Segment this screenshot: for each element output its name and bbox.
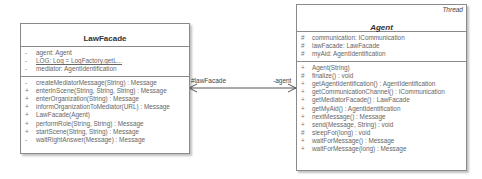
attributes-section: #communication: ICommunication #lawFacad… — [297, 32, 466, 62]
operation-row: +informOrganizationToMediator(URL) : Mes… — [21, 103, 189, 111]
attribute-row: -agent: Agent — [21, 49, 189, 57]
attribute-row: #myAid: AgentIdentification — [297, 50, 466, 58]
role-agent-label: -agent — [273, 77, 291, 84]
attribute-row: #lawFacade: LawFacade — [297, 42, 466, 50]
operations-section: -createMediatorMessage(String) : Message… — [21, 77, 189, 147]
operation-row: +waitForMessage(long) : Message — [297, 145, 466, 153]
operation-row: +getCommunicationChannel() : ICommunicat… — [297, 88, 466, 96]
class-name: Agent — [370, 23, 393, 32]
operation-row: +getMyAid() : AgentIdentification — [297, 105, 466, 113]
operation-row: #sleepFor(long) : void — [297, 129, 466, 137]
operation-row: +performRole(String, String) : Message — [21, 120, 189, 128]
attribute-row: -LOG: Log = LogFactory.getL... — [21, 57, 189, 65]
operation-row: +waitForMessage() : Message — [297, 137, 466, 145]
role-lawfacade-label: #lawFacade — [191, 77, 226, 84]
operation-row: +enterInScene(String, String, String) : … — [21, 87, 189, 95]
class-name: LawFacade — [83, 34, 126, 43]
operation-row: +enterOrganization(String) : Message — [21, 95, 189, 103]
operation-row: +getMediatorFacade() : LawFacade — [297, 96, 466, 104]
operations-section: +Agent(String) #finalize() : void +getAg… — [297, 62, 466, 156]
stereotype-label: Thread — [442, 6, 463, 13]
class-header: LawFacade — [21, 24, 189, 47]
attribute-row: #communication: ICommunication — [297, 34, 466, 42]
attributes-section: -agent: Agent -LOG: Log = LogFactory.get… — [21, 47, 189, 77]
class-agent[interactable]: Thread Agent #communication: ICommunicat… — [296, 4, 467, 171]
class-header: Thread Agent — [297, 5, 466, 32]
operation-row: +LawFacade(Agent) — [21, 111, 189, 119]
class-lawfacade[interactable]: LawFacade -agent: Agent -LOG: Log = LogF… — [20, 23, 190, 154]
operation-row: -createMediatorMessage(String) : Message — [21, 79, 189, 87]
operation-row: +getAgentIdentification() : AgentIdentif… — [297, 80, 466, 88]
attribute-row: -mediator: AgentIdentification — [21, 65, 189, 73]
operation-row: #finalize() : void — [297, 72, 466, 80]
operation-row: +startScene(String, String) : Message — [21, 128, 189, 136]
operation-row: +Agent(String) — [297, 64, 466, 72]
operation-row: +nextMessage() : Message — [297, 113, 466, 121]
operation-row: +send(Message, String) : void — [297, 121, 466, 129]
operation-row: -waitRightAnswer(Message) : Message — [21, 136, 189, 144]
